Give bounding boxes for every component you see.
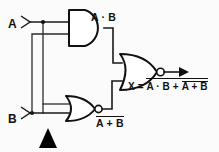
output-term-2-overbar: A + B [182,81,208,93]
cursor-triangle [39,128,57,148]
logic-circuit-diagram: A B A · B A + B X = A · B + A + B [0,0,219,152]
junction-a [41,20,45,24]
output-expression-prefix: X = [128,82,144,92]
wire-nor1-out [102,81,122,109]
and-gate-output-label: A · B [91,12,116,23]
output-expression-label: X = A · B + A + B [128,78,208,92]
output-arrow-icon [179,67,189,77]
input-a-label: A [8,18,17,30]
wire-and-out [104,28,122,63]
output-expression-outer-bar: A · B + A + B [146,78,207,92]
wire-b-branch-up [32,34,69,113]
input-a-terminal[interactable] [21,16,30,28]
nor-gate-output-label: A + B [96,116,124,128]
nor-gate-1-bubble [95,105,102,112]
nor-gate-out-bubble [157,68,165,76]
input-b-label: B [8,113,17,125]
nor-output-overbar-text: A + B [96,116,124,128]
input-b-terminal[interactable] [21,107,30,119]
output-term-1: A · B [146,82,169,92]
